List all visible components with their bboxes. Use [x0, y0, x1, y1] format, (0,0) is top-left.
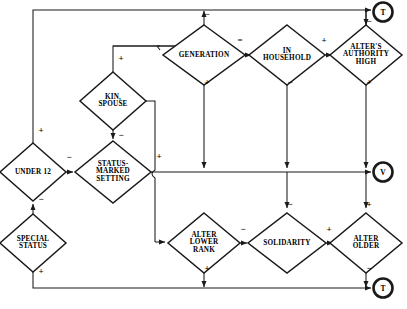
edge-special-to-bottom-rail [33, 272, 371, 288]
edge-sign: − [202, 10, 212, 19]
edge-sign: − [116, 131, 126, 140]
edge-sign: = [235, 36, 245, 45]
edge-sign: + [116, 54, 126, 63]
edge-sign: + [324, 225, 334, 234]
terminal-label-v-middle: V [373, 168, 393, 177]
terminal-label-t-top: T [373, 8, 393, 17]
edge-sign: − [238, 225, 248, 234]
edge-sign: + [364, 200, 374, 209]
edge-sign: − [36, 195, 46, 204]
edge-sign: − [364, 264, 374, 273]
edge-sign: + [319, 36, 329, 45]
edge-sign: + [36, 126, 46, 135]
edge-sign: − [64, 153, 74, 162]
edge-status-marked-hop-down [152, 166, 155, 242]
edge-sign: − [285, 200, 295, 209]
edge-sign: + [202, 78, 212, 87]
edge-kin-rail-corner [157, 46, 160, 50]
node-alters-authority-high[interactable] [330, 25, 402, 85]
node-layer [0, 25, 402, 273]
edge-sign: + [364, 78, 374, 87]
node-in-household[interactable] [249, 25, 325, 85]
edge-sign: + [202, 264, 212, 273]
edge-sign: − [285, 78, 295, 87]
node-status-marked-setting[interactable] [75, 141, 151, 203]
node-solidarity[interactable] [248, 213, 326, 273]
edge-sign: − [364, 17, 374, 26]
node-under-12[interactable] [0, 143, 66, 201]
node-special-status[interactable] [0, 214, 66, 272]
terminal-label-t-bottom: T [373, 284, 393, 293]
node-generation[interactable] [163, 25, 245, 85]
edge-sign: + [36, 267, 46, 276]
edge-sign: + [154, 152, 164, 161]
node-kin-spouse[interactable] [80, 72, 146, 130]
signed-digraph-figure: UNDER 12 SPECIAL STATUS STATUS- MARKED S… [0, 0, 407, 309]
